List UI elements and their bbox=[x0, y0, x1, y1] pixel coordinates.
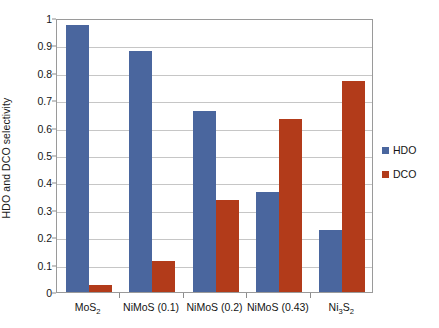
x-axis-label: MoS2 bbox=[75, 301, 101, 313]
x-tick-mark bbox=[183, 293, 184, 298]
bar-group bbox=[66, 20, 112, 292]
y-tick-label: 0.5 bbox=[22, 150, 52, 162]
y-tick-label: 0.2 bbox=[22, 232, 52, 244]
bar-dco-NiMoS01[interactable] bbox=[152, 261, 175, 293]
x-axis-label: NiMoS (0.2) bbox=[186, 301, 242, 313]
x-axis-label: NiMoS (0.1) bbox=[123, 301, 179, 313]
bar-hdo-NiMoS02[interactable] bbox=[193, 111, 216, 292]
plot-area bbox=[56, 19, 373, 293]
x-axis-label: NiMoS (0.43) bbox=[247, 301, 309, 313]
bar-chart: HDO and DCO selectivity 10.90.80.70.60.5… bbox=[0, 0, 439, 328]
bar-group bbox=[129, 20, 175, 292]
bar-dco-NiMoS043[interactable] bbox=[279, 119, 302, 292]
y-tick-label: 0.4 bbox=[22, 177, 52, 189]
x-tick-mark bbox=[310, 293, 311, 298]
y-tick-label: 0.1 bbox=[22, 260, 52, 272]
y-tick-label: 1 bbox=[22, 13, 52, 25]
y-tick-label: 0 bbox=[22, 287, 52, 299]
y-tick-mark bbox=[52, 156, 56, 157]
y-tick-mark bbox=[52, 238, 56, 239]
legend-label: HDO bbox=[393, 144, 416, 156]
y-tick-label: 0.6 bbox=[22, 123, 52, 135]
bar-series-container bbox=[57, 20, 372, 292]
bar-hdo-NiMoS043[interactable] bbox=[256, 192, 279, 292]
legend-swatch-icon bbox=[382, 171, 389, 178]
bar-hdo-NiMoS01[interactable] bbox=[129, 51, 152, 292]
bar-group bbox=[319, 20, 365, 292]
y-axis-title: HDO and DCO selectivity bbox=[0, 13, 16, 303]
bar-dco-Ni3S2[interactable] bbox=[342, 81, 365, 292]
y-tick-label: 0.7 bbox=[22, 95, 52, 107]
y-tick-mark bbox=[52, 101, 56, 102]
legend-label: DCO bbox=[393, 168, 416, 180]
legend-item-hdo[interactable]: HDO bbox=[382, 138, 438, 162]
legend-item-dco[interactable]: DCO bbox=[382, 162, 438, 186]
y-tick-mark bbox=[52, 128, 56, 129]
bar-group bbox=[256, 20, 302, 292]
y-tick-mark bbox=[52, 293, 56, 294]
bar-group bbox=[193, 20, 239, 292]
legend-swatch-icon bbox=[382, 147, 389, 154]
y-tick-mark bbox=[52, 210, 56, 211]
bar-hdo-MoS2[interactable] bbox=[66, 25, 89, 292]
y-tick-label: 0.9 bbox=[22, 40, 52, 52]
y-tick-mark bbox=[52, 265, 56, 266]
y-tick-mark bbox=[52, 183, 56, 184]
y-tick-label: 0.3 bbox=[22, 205, 52, 217]
y-tick-label: 0.8 bbox=[22, 68, 52, 80]
bar-dco-MoS2[interactable] bbox=[89, 285, 112, 292]
x-tick-mark bbox=[246, 293, 247, 298]
y-tick-mark bbox=[52, 46, 56, 47]
x-tick-mark bbox=[119, 293, 120, 298]
chart-legend: HDODCO bbox=[382, 138, 438, 186]
y-axis-tick-labels: 10.90.80.70.60.50.40.30.20.10 bbox=[22, 0, 52, 328]
y-tick-mark bbox=[52, 73, 56, 74]
y-tick-mark bbox=[52, 19, 56, 20]
x-axis-label: Ni3S2 bbox=[329, 301, 354, 313]
bar-hdo-Ni3S2[interactable] bbox=[319, 230, 342, 292]
bar-dco-NiMoS02[interactable] bbox=[216, 200, 239, 292]
